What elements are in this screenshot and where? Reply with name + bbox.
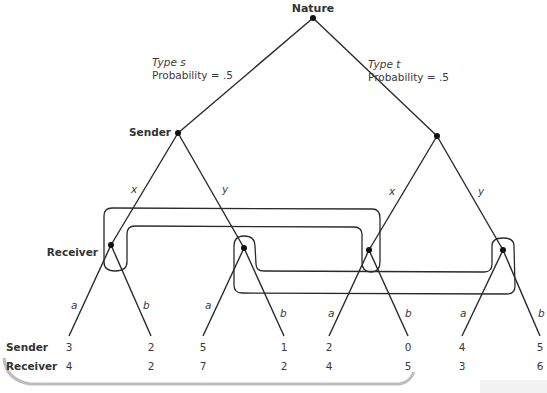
action-t-y: y [477,185,485,197]
page-shade [480,380,547,393]
payoff-receiver-6: 5 [405,360,412,372]
type-t-label: Type t [368,58,401,70]
edge-sx-b [111,245,151,336]
payoff-receiver-8: 6 [537,360,544,372]
payoff-receiver-7: 3 [459,360,466,372]
action-tx-a: a [328,307,334,319]
payoff-sender-8: 5 [537,341,544,353]
payoff-sender-5: 2 [326,341,333,353]
payoff-receiver-5: 4 [326,360,333,372]
action-ty-a: a [460,307,466,319]
action-tx-b: b [405,307,412,319]
information-set-x [104,208,380,272]
action-sx-b: b [143,299,150,311]
edge-s-y [178,133,244,248]
payoff-receiver-4: 2 [281,360,288,372]
edge-sx-a [69,245,111,336]
payoff-sender-4: 1 [281,341,288,353]
nature-node [310,15,316,21]
edge-t-y [437,136,503,250]
payoff-sender-1: 3 [66,341,73,353]
payoff-sender-7: 4 [459,341,466,353]
sender-node-t [434,133,440,139]
action-ty-b: b [538,307,545,319]
edge-sy-b [244,248,284,336]
receiver-node-sx [108,242,114,248]
receiver-node-ty [500,247,506,253]
action-sy-a: a [205,299,211,311]
edge-t-x [369,136,437,250]
action-s-y: y [221,183,229,195]
edge-s-x [111,133,178,245]
type-s-label: Type s [152,56,186,68]
edge-ty-a [462,250,503,336]
sender-node-s [175,130,181,136]
payoff-sender-2: 2 [148,341,155,353]
action-sy-b: b [280,307,287,319]
payoff-receiver-1: 4 [66,360,73,372]
type-s-prob: Probability = .5 [152,69,233,81]
sender-label: Sender [129,126,172,138]
receiver-node-tx [366,247,372,253]
payoff-sender-6: 0 [405,341,412,353]
payoff-receiver-2: 2 [148,360,155,372]
game-tree-diagram: Nature Type s Probability = .5 Type t Pr… [0,0,547,393]
action-t-x: x [388,185,396,197]
edge-ty-b [503,250,540,336]
action-sx-a: a [71,299,77,311]
payoff-row-sender: Sender [6,341,49,353]
payoff-receiver-3: 7 [200,360,207,372]
information-set-y [234,236,515,294]
receiver-label: Receiver [47,246,99,258]
type-t-prob: Probability = .5 [368,71,449,83]
receiver-node-sy [241,245,247,251]
payoff-sender-3: 5 [200,341,207,353]
nature-label: Nature [292,2,335,15]
payoff-row-receiver: Receiver [6,360,58,372]
action-s-x: x [130,183,138,195]
